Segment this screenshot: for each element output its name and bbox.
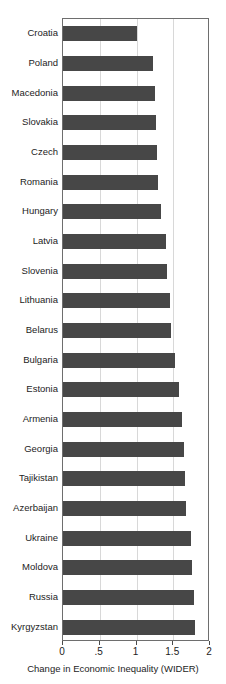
bar bbox=[63, 293, 170, 308]
category-label: Poland bbox=[0, 57, 58, 68]
bar bbox=[63, 175, 158, 190]
bar bbox=[63, 145, 157, 160]
bar bbox=[63, 323, 171, 338]
bar-row bbox=[63, 56, 208, 71]
bar-row bbox=[63, 175, 208, 190]
x-axis: 0.511.52 bbox=[62, 641, 209, 661]
category-label: Belarus bbox=[0, 324, 58, 335]
bar-row bbox=[63, 620, 208, 635]
bar bbox=[63, 86, 155, 101]
category-label: Latvia bbox=[0, 235, 58, 246]
category-label: Slovenia bbox=[0, 265, 58, 276]
category-label: Bulgaria bbox=[0, 354, 58, 365]
bar-row bbox=[63, 145, 208, 160]
category-label: Czech bbox=[0, 146, 58, 157]
x-tick-label: .5 bbox=[95, 646, 103, 658]
category-label: Moldova bbox=[0, 561, 58, 572]
category-label: Macedonia bbox=[0, 87, 58, 98]
category-label: Kyrgyzstan bbox=[0, 621, 58, 632]
bar-row bbox=[63, 115, 208, 130]
plot-area bbox=[62, 18, 209, 641]
bar-row bbox=[63, 353, 208, 368]
category-label: Lithuania bbox=[0, 294, 58, 305]
category-label: Slovakia bbox=[0, 116, 58, 127]
x-tick-mark bbox=[172, 641, 173, 645]
bar-row bbox=[63, 264, 208, 279]
bar bbox=[63, 471, 185, 486]
bar-row bbox=[63, 323, 208, 338]
bar bbox=[63, 501, 186, 516]
bar bbox=[63, 115, 156, 130]
x-axis-title: Change in Economic Inequality (WIDER) bbox=[0, 663, 226, 675]
x-tick-label: 1 bbox=[133, 646, 139, 658]
bar-row bbox=[63, 234, 208, 249]
x-tick-mark bbox=[62, 641, 63, 645]
bar bbox=[63, 442, 184, 457]
category-label: Estonia bbox=[0, 383, 58, 394]
bar-row bbox=[63, 501, 208, 516]
bar bbox=[63, 382, 179, 397]
category-label: Ukraine bbox=[0, 532, 58, 543]
x-tick-mark bbox=[136, 641, 137, 645]
bar-row bbox=[63, 86, 208, 101]
bars-layer bbox=[63, 19, 208, 640]
x-tick-mark bbox=[99, 641, 100, 645]
bar bbox=[63, 26, 137, 41]
bar-row bbox=[63, 412, 208, 427]
x-tick-label: 0 bbox=[59, 646, 65, 658]
x-tick-label: 1.5 bbox=[165, 646, 179, 658]
bar bbox=[63, 204, 161, 219]
bar bbox=[63, 620, 195, 635]
bar-row bbox=[63, 26, 208, 41]
bar-row bbox=[63, 382, 208, 397]
bar bbox=[63, 531, 191, 546]
bar-row bbox=[63, 531, 208, 546]
category-label: Croatia bbox=[0, 27, 58, 38]
bar bbox=[63, 560, 192, 575]
bar-row bbox=[63, 590, 208, 605]
category-label: Tajikistan bbox=[0, 472, 58, 483]
category-label: Romania bbox=[0, 176, 58, 187]
x-tick-mark bbox=[209, 641, 210, 645]
bar-row bbox=[63, 204, 208, 219]
category-label: Azerbaijan bbox=[0, 502, 58, 513]
category-axis-labels: CroatiaPolandMacedoniaSlovakiaCzechRoman… bbox=[0, 18, 58, 641]
bar-row bbox=[63, 471, 208, 486]
bar-row bbox=[63, 293, 208, 308]
bar bbox=[63, 590, 194, 605]
bar bbox=[63, 234, 166, 249]
bar-row bbox=[63, 560, 208, 575]
category-label: Armenia bbox=[0, 413, 58, 424]
category-label: Georgia bbox=[0, 443, 58, 454]
economic-inequality-bar-chart: CroatiaPolandMacedoniaSlovakiaCzechRoman… bbox=[0, 0, 226, 684]
category-label: Hungary bbox=[0, 205, 58, 216]
x-tick-label: 2 bbox=[206, 646, 212, 658]
bar bbox=[63, 353, 175, 368]
bar bbox=[63, 56, 153, 71]
bar-row bbox=[63, 442, 208, 457]
bar bbox=[63, 264, 167, 279]
bar bbox=[63, 412, 182, 427]
category-label: Russia bbox=[0, 591, 58, 602]
